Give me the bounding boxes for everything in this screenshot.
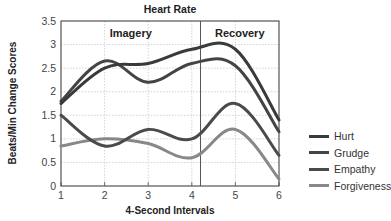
legend-item-hurt: Hurt — [309, 128, 391, 145]
x-tick-label: 1 — [58, 189, 64, 201]
legend-label: Hurt — [334, 130, 354, 142]
legend-item-empathy: Empathy — [309, 161, 391, 178]
legend-swatch — [309, 151, 329, 154]
y-tick-label: 0 — [50, 180, 56, 192]
legend-swatch — [309, 168, 329, 171]
chart-legend: HurtGrudgeEmpathyForgiveness — [309, 128, 391, 194]
plot-frame — [61, 21, 279, 186]
legend-label: Empathy — [334, 163, 375, 175]
legend-swatch — [309, 135, 329, 138]
x-tick-label: 2 — [102, 189, 108, 201]
y-tick-label: 2 — [50, 85, 56, 97]
annotation-imagery: Imagery — [110, 27, 153, 39]
legend-label: Forgiveness — [334, 180, 391, 192]
legend-item-forgiveness: Forgiveness — [309, 178, 391, 195]
x-tick-label: 6 — [276, 189, 282, 201]
y-tick-label: 0.5 — [41, 156, 56, 168]
x-tick-label: 3 — [145, 189, 151, 201]
legend-label: Grudge — [334, 147, 369, 159]
y-tick-label: 3 — [50, 38, 56, 50]
series-line-grudge — [61, 59, 279, 132]
y-tick-label: 1 — [50, 132, 56, 144]
legend-swatch — [309, 184, 329, 187]
annotation-recovery: Recovery — [215, 27, 265, 39]
x-tick-label: 4 — [189, 189, 195, 201]
series-line-empathy — [61, 103, 279, 155]
y-tick-label: 3.5 — [41, 15, 56, 27]
y-tick-label: 2.5 — [41, 62, 56, 74]
legend-item-grudge: Grudge — [309, 145, 391, 162]
y-tick-label: 1.5 — [41, 109, 56, 121]
x-tick-label: 5 — [232, 189, 238, 201]
